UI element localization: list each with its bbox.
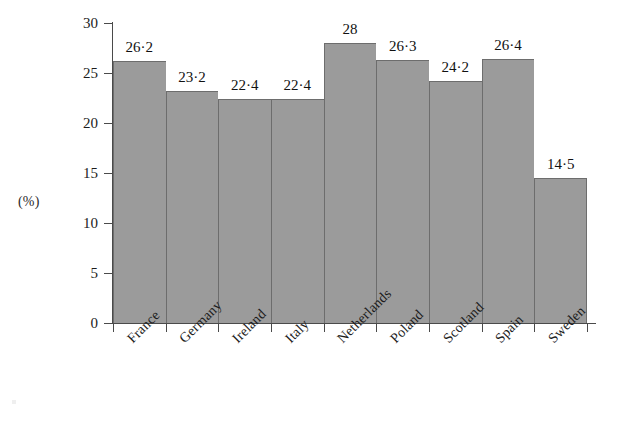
bar-italy[interactable]: 22·4 xyxy=(271,23,324,323)
bar-ireland[interactable]: 22·4 xyxy=(218,23,271,323)
y-tick-label: 0 xyxy=(72,316,98,331)
y-tick-label: 30 xyxy=(72,16,98,31)
bar-rect xyxy=(271,99,324,323)
y-tick-label: 10 xyxy=(72,216,98,231)
x-tick-mark xyxy=(166,323,167,332)
bars-group: 26·223·222·422·42826·324·226·414·5 xyxy=(113,23,587,323)
y-tick-mark xyxy=(104,323,113,324)
x-tick-mark xyxy=(534,323,535,332)
x-tick-mark xyxy=(113,323,114,332)
bar-rect xyxy=(376,60,429,323)
x-tick-mark xyxy=(271,323,272,332)
x-tick-mark xyxy=(482,323,483,332)
bar-rect xyxy=(429,81,482,323)
y-tick-mark xyxy=(104,273,113,274)
y-tick-mark xyxy=(104,73,113,74)
y-tick-label: 5 xyxy=(72,266,98,281)
bar-rect xyxy=(166,91,219,323)
y-tick-mark xyxy=(104,223,113,224)
x-tick-mark xyxy=(376,323,377,332)
bar-germany[interactable]: 23·2 xyxy=(166,23,219,323)
x-axis-ticks: FranceGermanyIrelandItalyNetherlandsPola… xyxy=(113,323,587,423)
x-tick-mark xyxy=(218,323,219,332)
bar-rect xyxy=(324,43,377,323)
bar-rect xyxy=(482,59,535,323)
bar-value-label: 14·5 xyxy=(518,157,603,172)
y-tick-label: 15 xyxy=(72,166,98,181)
y-axis-unit-label: (%) xyxy=(18,194,40,210)
bar-scotland[interactable]: 24·2 xyxy=(429,23,482,323)
y-tick-mark xyxy=(104,123,113,124)
bar-chart: (%) 051015202530 26·223·222·422·42826·32… xyxy=(0,0,618,423)
x-tick-mark xyxy=(587,323,588,332)
y-tick-label: 20 xyxy=(72,116,98,131)
y-tick-label: 25 xyxy=(72,66,98,81)
bar-spain[interactable]: 26·4 xyxy=(482,23,535,323)
bar-rect xyxy=(113,61,166,323)
bar-rect xyxy=(218,99,271,323)
bar-sweden[interactable]: 14·5 xyxy=(534,23,587,323)
y-tick-mark xyxy=(104,23,113,24)
bar-rect xyxy=(534,178,587,323)
x-tick-mark xyxy=(324,323,325,332)
scan-artifact xyxy=(12,400,16,404)
bar-netherlands[interactable]: 28 xyxy=(324,23,377,323)
y-tick-mark xyxy=(104,173,113,174)
bar-france[interactable]: 26·2 xyxy=(113,23,166,323)
x-tick-mark xyxy=(429,323,430,332)
